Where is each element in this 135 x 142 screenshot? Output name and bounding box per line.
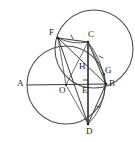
point-label-C: C — [88, 30, 94, 39]
segment-BD — [88, 84, 106, 124]
tick-mark-BD — [96, 106, 100, 107]
point-label-D: D — [86, 127, 93, 136]
segment-AB — [27, 84, 107, 85]
figure-canvas — [0, 0, 135, 142]
point-label-E: E — [82, 86, 88, 95]
geometry-figure: A O E B C D F G H — [0, 0, 135, 142]
vertex-dot-C — [87, 41, 90, 44]
point-label-F: F — [49, 28, 54, 37]
vertex-dot-D — [87, 123, 90, 126]
vertex-dot-B — [105, 83, 108, 86]
point-label-G: G — [105, 66, 112, 75]
point-label-A: A — [17, 79, 24, 88]
tick-mark-CG — [99, 56, 103, 58]
vertex-dot-F — [57, 37, 60, 40]
point-label-O: O — [59, 86, 66, 95]
tick-mark-FC — [71, 35, 73, 39]
small-circle-upper-right — [55, 10, 133, 88]
point-label-B: B — [109, 79, 115, 88]
point-label-H: H — [79, 62, 86, 71]
